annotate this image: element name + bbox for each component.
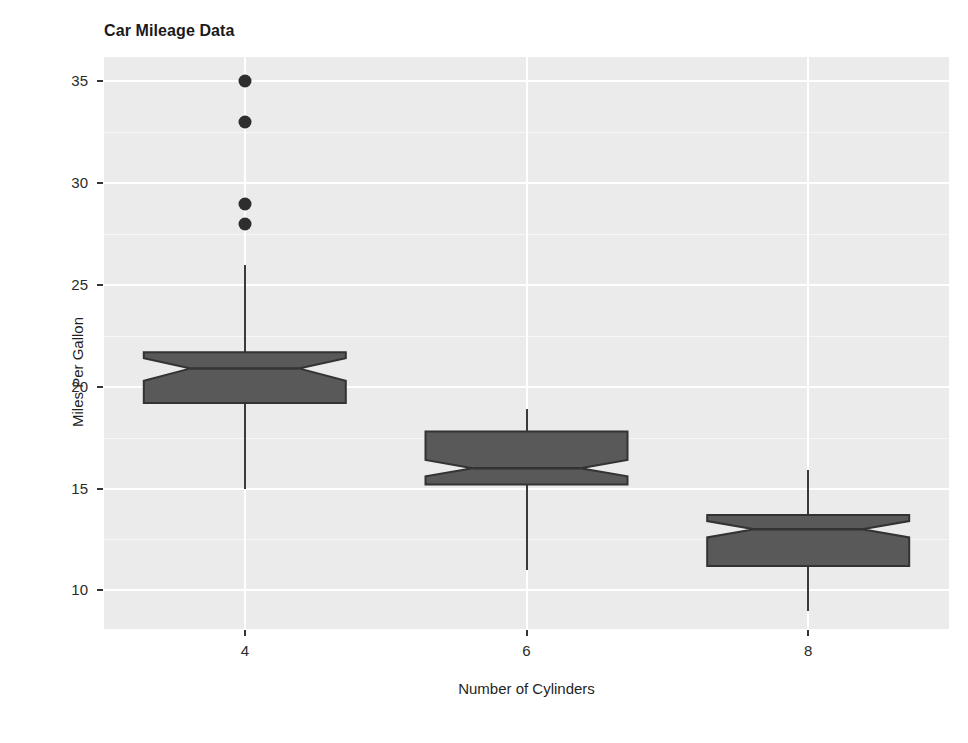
y-axis-tick-mark <box>97 488 103 490</box>
x-axis-tick-mark <box>244 630 246 636</box>
y-axis-tick-mark <box>97 386 103 388</box>
x-axis-title: Number of Cylinders <box>104 680 949 697</box>
y-axis-tick-label: 15 <box>0 481 88 496</box>
y-axis-tick-label: 10 <box>0 582 88 597</box>
y-axis-tick-mark <box>97 589 103 591</box>
box-notched[interactable] <box>104 57 949 629</box>
y-axis-tick-label: 35 <box>0 73 88 88</box>
boxplot-series <box>104 57 949 629</box>
x-axis-tick-mark <box>526 630 528 636</box>
page-title: Car Mileage Data <box>104 22 235 40</box>
x-axis-tick-label: 4 <box>241 643 249 658</box>
y-axis-tick-mark <box>97 284 103 286</box>
y-axis-tick-mark <box>97 80 103 82</box>
x-axis-tick-mark <box>807 630 809 636</box>
chart-root: Car Mileage Data Miles Per Gallon Number… <box>0 0 968 743</box>
x-axis-tick-label: 6 <box>522 643 530 658</box>
y-axis-tick-label: 25 <box>0 277 88 292</box>
y-axis-tick-label: 30 <box>0 175 88 190</box>
boxplot-group[interactable] <box>104 57 949 629</box>
plot-panel <box>104 57 949 629</box>
y-axis-tick-mark <box>97 182 103 184</box>
x-axis-tick-label: 8 <box>804 643 812 658</box>
y-axis-title: Miles Per Gallon <box>69 316 86 426</box>
y-axis-tick-label: 20 <box>0 379 88 394</box>
